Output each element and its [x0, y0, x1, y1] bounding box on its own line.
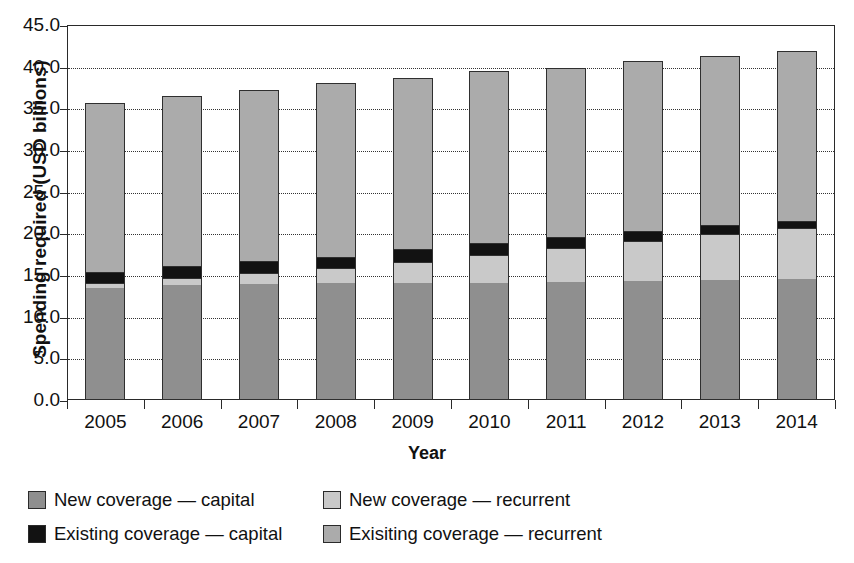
- bar-segment[interactable]: [393, 249, 433, 262]
- bars-layer: [67, 25, 835, 400]
- stacked-bar[interactable]: [777, 51, 817, 400]
- legend-swatch-icon: [323, 525, 341, 543]
- bar-group: [546, 25, 586, 400]
- bar-segment[interactable]: [546, 68, 586, 237]
- bar-segment[interactable]: [85, 103, 125, 272]
- bar-segment[interactable]: [239, 284, 279, 400]
- x-tick-label: 2010: [468, 411, 510, 433]
- bar-segment[interactable]: [316, 283, 356, 400]
- bar-group: [777, 25, 817, 400]
- x-tick-label: 2006: [161, 411, 203, 433]
- bar-group: [700, 25, 740, 400]
- bar-segment[interactable]: [162, 96, 202, 266]
- bar-segment[interactable]: [546, 282, 586, 400]
- bar-segment[interactable]: [777, 221, 817, 229]
- legend-item-exisiting-coverage-recurrent: Exisiting coverage — recurrent: [323, 523, 602, 545]
- stacked-bar[interactable]: [162, 96, 202, 400]
- stacked-bar[interactable]: [546, 68, 586, 401]
- x-tick-label: 2005: [84, 411, 126, 433]
- bar-segment[interactable]: [239, 90, 279, 261]
- stacked-bar[interactable]: [393, 78, 433, 401]
- bar-segment[interactable]: [393, 283, 433, 400]
- x-tick-mark: [221, 400, 222, 409]
- x-axis-title: Year: [0, 443, 854, 464]
- x-tick-mark: [758, 400, 759, 409]
- bar-group: [623, 25, 663, 400]
- x-tick-mark: [144, 400, 145, 409]
- y-tick-label: 30.0: [0, 139, 60, 161]
- bar-segment[interactable]: [469, 243, 509, 256]
- bar-segment[interactable]: [700, 280, 740, 400]
- legend-item-new-coverage-recurrent: New coverage — recurrent: [323, 489, 570, 511]
- y-tick-label: 0.0: [0, 389, 60, 411]
- bar-segment[interactable]: [700, 56, 740, 225]
- x-tick-mark: [528, 400, 529, 409]
- legend-item-new-coverage-capital: New coverage — capital: [28, 489, 323, 511]
- bar-group: [393, 25, 433, 400]
- y-tick-label: 15.0: [0, 264, 60, 286]
- bar-segment[interactable]: [623, 231, 663, 241]
- legend-label: Exisiting coverage — recurrent: [349, 523, 602, 545]
- stacked-bar[interactable]: [239, 90, 279, 400]
- x-tick-label: 2012: [622, 411, 664, 433]
- x-tick-label: 2009: [391, 411, 433, 433]
- bar-group: [239, 25, 279, 400]
- x-tick-mark: [835, 400, 836, 409]
- legend-swatch-icon: [323, 491, 341, 509]
- bar-segment[interactable]: [777, 228, 817, 279]
- bar-segment[interactable]: [162, 285, 202, 400]
- y-tick-label: 20.0: [0, 222, 60, 244]
- bar-segment[interactable]: [316, 268, 356, 283]
- bar-segment[interactable]: [623, 281, 663, 400]
- bar-segment[interactable]: [469, 283, 509, 401]
- bar-segment[interactable]: [316, 83, 356, 256]
- x-tick-mark: [374, 400, 375, 409]
- stacked-bar[interactable]: [623, 61, 663, 400]
- y-tick-label: 10.0: [0, 306, 60, 328]
- y-tick-label: 45.0: [0, 14, 60, 36]
- x-tick-label: 2008: [315, 411, 357, 433]
- bar-group: [469, 25, 509, 400]
- stacked-bar[interactable]: [700, 56, 740, 400]
- x-tick-label: 2013: [699, 411, 741, 433]
- bar-segment[interactable]: [546, 237, 586, 249]
- y-tick-label: 25.0: [0, 181, 60, 203]
- stacked-bar[interactable]: [85, 103, 125, 401]
- bar-group: [316, 25, 356, 400]
- bar-segment[interactable]: [85, 272, 125, 283]
- legend-swatch-icon: [28, 491, 46, 509]
- legend-label: Existing coverage — capital: [54, 523, 282, 545]
- bar-segment[interactable]: [623, 61, 663, 231]
- y-tick-label: 5.0: [0, 347, 60, 369]
- legend-row: New coverage — capital New coverage — re…: [28, 483, 728, 517]
- stacked-bar[interactable]: [469, 71, 509, 400]
- bar-segment[interactable]: [162, 278, 202, 285]
- bar-segment[interactable]: [239, 261, 279, 274]
- chart-legend: New coverage — capital New coverage — re…: [28, 483, 728, 551]
- x-tick-mark: [297, 400, 298, 409]
- bar-segment[interactable]: [700, 234, 740, 280]
- bar-segment[interactable]: [777, 279, 817, 400]
- legend-label: New coverage — recurrent: [349, 489, 570, 511]
- bar-segment[interactable]: [546, 248, 586, 281]
- bar-segment[interactable]: [700, 225, 740, 234]
- bar-segment[interactable]: [469, 255, 509, 283]
- bar-segment[interactable]: [393, 78, 433, 250]
- x-tick-mark: [681, 400, 682, 409]
- bar-segment[interactable]: [393, 262, 433, 284]
- x-tick-mark: [67, 400, 68, 409]
- x-tick-label: 2007: [238, 411, 280, 433]
- legend-item-existing-coverage-capital: Existing coverage — capital: [28, 523, 323, 545]
- bar-segment[interactable]: [162, 266, 202, 279]
- stacked-bar[interactable]: [316, 83, 356, 400]
- legend-row: Existing coverage — capital Exisiting co…: [28, 517, 728, 551]
- bar-segment[interactable]: [469, 71, 509, 243]
- bar-segment[interactable]: [623, 241, 663, 281]
- bar-segment[interactable]: [777, 51, 817, 221]
- bar-segment[interactable]: [239, 273, 279, 284]
- bar-group: [162, 25, 202, 400]
- bar-segment[interactable]: [85, 288, 125, 401]
- bar-segment[interactable]: [316, 257, 356, 269]
- x-tick-mark: [451, 400, 452, 409]
- bar-group: [85, 25, 125, 400]
